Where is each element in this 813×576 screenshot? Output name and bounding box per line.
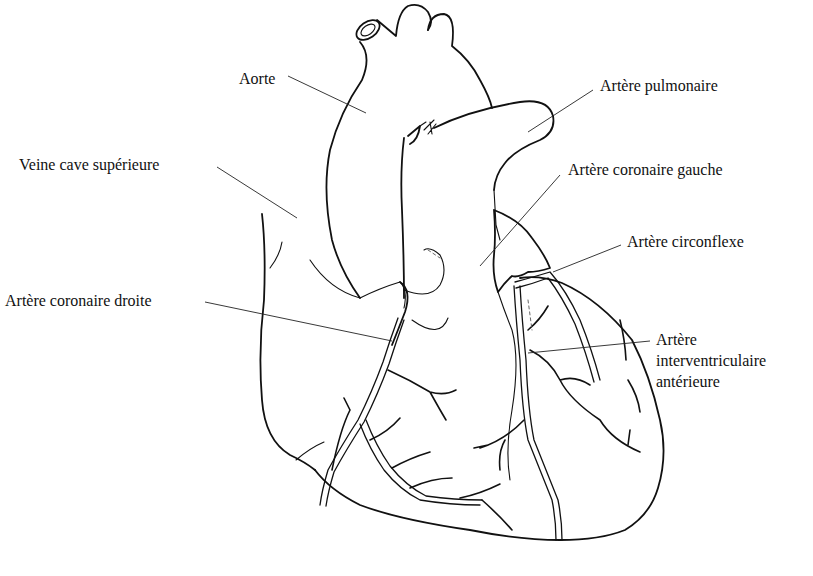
label-veine-cave-superieure: Veine cave supérieure [19,155,159,174]
leader-line-artere-pulmonaire [528,90,593,132]
label-artere-coronaire-droite: Artère coronaire droite [5,291,152,310]
leader-line-artere-coronaire-gauche [480,175,560,266]
label-aorte: Aorte [239,69,275,88]
label-artere-interventriculaire-anterieure-line1: Artère [656,330,697,349]
label-artere-pulmonaire: Artère pulmonaire [600,76,718,95]
label-artere-interventriculaire-anterieure-line2: interventriculaire [656,351,766,370]
heart-anatomy-diagram: Aorte Veine cave supérieure Artère pulmo… [0,0,813,576]
label-artere-coronaire-gauche: Artère coronaire gauche [568,160,723,179]
leader-line-veine-cave-superieure [217,167,297,218]
label-artere-circonflexe: Artère circonflexe [627,232,744,251]
leader-line-artere-circonflexe [553,245,621,272]
label-artere-interventriculaire-anterieure-line3: antérieure [656,372,720,391]
leader-line-aorte [288,76,366,113]
leader-line-artere-interventriculaire-anterieure [528,341,650,353]
leader-line-artere-coronaire-droite [205,302,392,341]
